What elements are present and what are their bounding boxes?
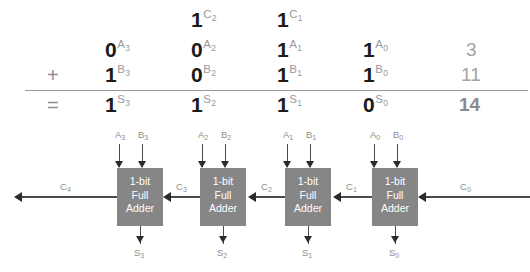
sum-bit-0: 0S0 (363, 94, 387, 115)
input-label-a0: A0 (370, 130, 380, 140)
ripple-carry-adder-diagram: A3 B3 1-bit Full Adder C4 S3 A2 B2 1-bit… (0, 122, 530, 272)
sum-bit-2: 1S2 (191, 94, 215, 115)
signal-label-c1: C1 (346, 182, 357, 192)
input-label-c0: C0 (460, 182, 471, 192)
full-adder-block-2[interactable]: 1-bit Full Adder (200, 168, 246, 226)
adder-line-1: 1-bit (117, 175, 163, 189)
operand-a-bit-2: 0A2 (191, 39, 215, 60)
input-label-b3: B3 (138, 130, 148, 140)
sum-decimal: 14 (459, 95, 480, 114)
arrow-b0-icon (393, 161, 401, 168)
arrow-c2-icon (248, 192, 256, 202)
sum-bit-1: 1S1 (277, 94, 301, 115)
adder-line-2: Full (200, 189, 246, 203)
arrow-b3-icon (138, 161, 146, 168)
arrow-s0-icon (391, 236, 399, 243)
arrow-a1-icon (283, 161, 291, 168)
adder-line-2: Full (285, 189, 331, 203)
adder-line-1: 1-bit (372, 175, 418, 189)
arrow-s1-icon (304, 236, 312, 243)
input-label-b1: B1 (306, 130, 316, 140)
wire-c4 (22, 196, 117, 198)
input-label-b2: B2 (221, 130, 231, 140)
carry-bit-c2: 1C2 (191, 9, 216, 30)
wire-c1 (341, 196, 372, 198)
arrow-b2-icon (221, 161, 229, 168)
signal-label-c3: C3 (176, 182, 187, 192)
output-label-s1: S1 (302, 248, 312, 258)
adder-line-3: Adder (372, 202, 418, 216)
operand-a-bit-3: 0A3 (105, 39, 129, 60)
adder-line-3: Adder (117, 202, 163, 216)
full-adder-block-3[interactable]: 1-bit Full Adder (117, 168, 163, 226)
arrow-a0-icon (370, 161, 378, 168)
operand-a-bit-1: 1A1 (277, 39, 301, 60)
binary-addition-worksheet: 1C2 1C1 0A3 0A2 1A1 1A0 3 + 1B3 0B2 1B1 … (0, 0, 530, 122)
operand-b-bit-3: 1B3 (105, 64, 129, 85)
plus-operator: + (47, 65, 59, 85)
sum-bit-3: 1S3 (105, 94, 129, 115)
arrow-c1-icon (333, 192, 341, 202)
arrow-s2-icon (219, 236, 227, 243)
operand-b-bit-2: 0B2 (191, 64, 215, 85)
adder-line-2: Full (117, 189, 163, 203)
wire-c3 (171, 196, 200, 198)
carry-bit-c1: 1C1 (277, 9, 302, 30)
operand-b-bit-1: 1B1 (277, 64, 301, 85)
arrow-c0-icon (418, 192, 426, 202)
adder-line-2: Full (372, 189, 418, 203)
output-label-s0: S0 (389, 248, 399, 258)
arrow-c4-icon (14, 192, 22, 202)
output-label-c4: C4 (60, 182, 71, 192)
arrow-s3-icon (136, 236, 144, 243)
wire-c0 (426, 196, 530, 198)
arrow-a2-icon (198, 161, 206, 168)
adder-line-3: Adder (200, 202, 246, 216)
addition-rule-line (25, 90, 528, 91)
input-label-a2: A2 (198, 130, 208, 140)
operand-a-decimal: 3 (466, 40, 477, 59)
operand-b-decimal: 11 (461, 65, 481, 84)
arrow-a3-icon (115, 161, 123, 168)
equals-operator: = (47, 95, 59, 115)
wire-c2 (256, 196, 285, 198)
arrow-c3-icon (163, 192, 171, 202)
adder-line-1: 1-bit (285, 175, 331, 189)
operand-b-bit-0: 1B0 (363, 64, 387, 85)
signal-label-c2: C2 (261, 182, 272, 192)
output-label-s3: S3 (134, 248, 144, 258)
output-label-s2: S2 (217, 248, 227, 258)
input-label-a3: A3 (115, 130, 125, 140)
full-adder-block-1[interactable]: 1-bit Full Adder (285, 168, 331, 226)
input-label-a1: A1 (283, 130, 293, 140)
adder-line-1: 1-bit (200, 175, 246, 189)
full-adder-block-0[interactable]: 1-bit Full Adder (372, 168, 418, 226)
arrow-b1-icon (306, 161, 314, 168)
operand-a-bit-0: 1A0 (363, 39, 387, 60)
input-label-b0: B0 (393, 130, 403, 140)
adder-line-3: Adder (285, 202, 331, 216)
